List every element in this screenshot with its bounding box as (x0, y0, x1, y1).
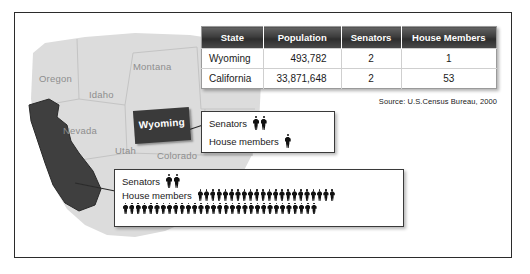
map-label-colorado: Colorado (157, 150, 197, 161)
person-icon (223, 189, 228, 201)
person-icon (323, 189, 328, 201)
cell-house-members-wyoming: 1 (401, 49, 496, 69)
table-header-state: State (202, 27, 264, 49)
map-label-montana: Montana (133, 61, 171, 72)
person-icon (217, 189, 222, 201)
person-icon (129, 203, 134, 215)
person-icon (304, 189, 309, 201)
person-icon (210, 189, 215, 201)
person-icon (198, 189, 203, 201)
person-icon (261, 203, 266, 215)
person-icon (298, 189, 303, 201)
person-icon (224, 203, 229, 215)
map-label-nevada: Nevada (63, 125, 97, 136)
cell-state-california: California (202, 69, 264, 89)
census-table: State Population Senators House Members … (201, 26, 497, 89)
person-icon (267, 189, 272, 201)
cell-senators-california: 2 (341, 69, 401, 89)
person-icon (205, 203, 210, 215)
person-icon (292, 189, 297, 201)
person-icon (280, 203, 285, 215)
person-icon (273, 189, 278, 201)
wyoming-callout: Senators House members (201, 111, 335, 153)
california-senators-pictogram (166, 174, 181, 188)
wyoming-senators-label: Senators (209, 118, 247, 129)
person-icon (136, 203, 141, 215)
table-header-senators: Senators (341, 27, 401, 49)
california-house-label: House members (122, 190, 192, 201)
person-icon (229, 189, 234, 201)
person-icon (293, 203, 298, 215)
person-icon (242, 203, 247, 215)
person-icon (311, 203, 316, 215)
table-header-house-members: House Members (401, 27, 496, 49)
map-highlight-wyoming: Wyoming (133, 107, 191, 144)
person-icon (174, 174, 180, 188)
table-row: California 33,871,648 2 53 (202, 69, 497, 89)
person-icon (173, 203, 178, 215)
person-icon (311, 189, 316, 201)
person-icon (235, 189, 240, 201)
cell-population-wyoming: 493,782 (263, 49, 341, 69)
person-icon (154, 203, 159, 215)
california-house-row: House members (122, 189, 396, 201)
person-icon (279, 189, 284, 201)
map-label-utah: Utah (115, 145, 136, 156)
person-icon (299, 203, 304, 215)
cell-senators-wyoming: 2 (341, 49, 401, 69)
map-label-oregon: Oregon (39, 73, 72, 84)
person-icon (249, 203, 254, 215)
person-icon (305, 203, 310, 215)
person-icon (123, 203, 128, 215)
census-table-container: State Population Senators House Members … (201, 26, 497, 89)
person-icon (161, 203, 166, 215)
california-senators-label: Senators (122, 176, 160, 187)
table-header-population: Population (263, 27, 341, 49)
person-icon (167, 203, 172, 215)
person-icon (286, 189, 291, 201)
person-icon (236, 203, 241, 215)
person-icon (180, 203, 185, 215)
person-icon (186, 203, 191, 215)
table-header-row: State Population Senators House Members (202, 27, 497, 49)
person-icon (142, 203, 147, 215)
table-row: Wyoming 493,782 2 1 (202, 49, 497, 69)
cell-house-members-california: 53 (401, 69, 496, 89)
california-house-row-continued (122, 203, 396, 215)
person-icon (242, 189, 247, 201)
person-icon (254, 189, 259, 201)
cell-population-california: 33,871,648 (263, 69, 341, 89)
california-house-pictogram-row-1 (198, 189, 336, 201)
person-icon (261, 189, 266, 201)
person-icon (217, 203, 222, 215)
person-icon (148, 203, 153, 215)
person-icon (166, 174, 172, 188)
source-note: Source: U.S.Census Bureau, 2000 (201, 97, 497, 106)
person-icon (267, 203, 272, 215)
map-label-idaho: Idaho (89, 89, 114, 100)
person-icon (255, 203, 260, 215)
person-icon (274, 203, 279, 215)
california-senators-row: Senators (122, 174, 396, 188)
person-icon (248, 189, 253, 201)
person-icon (204, 189, 209, 201)
wyoming-house-label: House members (209, 136, 279, 147)
california-callout: Senators House members (114, 169, 404, 227)
infographic-figure: Oregon Montana Idaho Nevada Utah Colorad… (14, 12, 512, 258)
person-icon (253, 116, 259, 130)
wyoming-senators-row: Senators (209, 116, 327, 130)
california-house-pictogram-row-2 (123, 203, 318, 215)
wyoming-house-pictogram (285, 134, 293, 148)
map-label-wyoming-highlight: Wyoming (134, 116, 191, 131)
wyoming-house-row: House members (209, 134, 327, 148)
person-icon (330, 189, 335, 201)
person-icon (317, 189, 322, 201)
wyoming-senators-pictogram (253, 116, 268, 130)
person-icon (192, 203, 197, 215)
cell-state-wyoming: Wyoming (202, 49, 264, 69)
person-icon (286, 203, 291, 215)
person-icon (198, 203, 203, 215)
person-icon (230, 203, 235, 215)
person-icon (261, 116, 267, 130)
person-icon (211, 203, 216, 215)
